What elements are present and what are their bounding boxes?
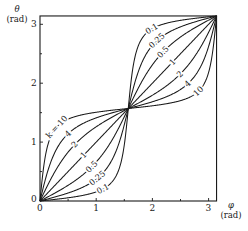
y-tick-label: 1 <box>31 137 37 147</box>
x-tick-label: 2 <box>149 203 155 213</box>
x-axis-unit: (rad) <box>216 210 246 220</box>
x-axis-label: φ (rad) <box>216 200 246 220</box>
x-tick-label: 3 <box>206 203 212 213</box>
y-tick-label: 2 <box>31 78 37 88</box>
x-tick-label: 0 <box>37 203 43 213</box>
chart-plot: k = 10k = 104422110.50.50.250.250.10.10.… <box>0 0 248 231</box>
y-axis-unit: (rad) <box>2 14 32 24</box>
y-tick-label: 3 <box>31 19 37 29</box>
y-axis-symbol: θ <box>2 4 32 14</box>
curve-family <box>40 16 217 201</box>
x-axis-symbol: φ <box>216 200 246 210</box>
y-tick-label: 0 <box>31 194 37 204</box>
x-tick-label: 1 <box>93 203 99 213</box>
y-axis-label: θ (rad) <box>2 4 32 24</box>
